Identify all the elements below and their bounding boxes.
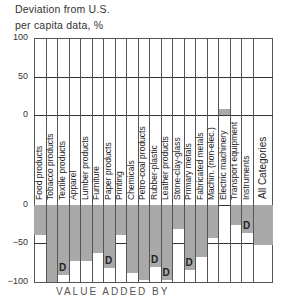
column-divider [115, 38, 116, 283]
tick-0-lower: 0 [4, 199, 28, 209]
axis-title-line1: Deviation from U.S. [15, 3, 110, 15]
bar [92, 205, 104, 253]
bar [207, 205, 219, 238]
category-label: Petro-coal products [137, 126, 147, 200]
bar [195, 205, 207, 257]
gridline-0-upper [34, 115, 273, 116]
category-label: Electric machinery [218, 131, 228, 200]
category-label: Chemicals [126, 160, 136, 200]
category-label: Instruments [241, 156, 251, 200]
column-divider [69, 38, 70, 283]
category-label: Food products [34, 146, 44, 200]
bar [34, 205, 46, 235]
category-label: Rubber-plastic [149, 145, 159, 200]
tick-minus100: −100 [4, 276, 28, 286]
column-divider [253, 38, 254, 283]
gridline-50 [34, 77, 273, 78]
tick-50: 50 [4, 71, 28, 81]
disclosure-marker: D [186, 257, 193, 268]
bar [69, 205, 81, 261]
disclosure-marker: D [151, 254, 158, 265]
bar [80, 205, 92, 261]
category-label: Primary metals [183, 143, 193, 200]
bar [138, 205, 150, 280]
bar [172, 205, 184, 229]
category-label: Fabricated metals [195, 132, 205, 200]
bar [230, 205, 242, 225]
tick-minus50: −50 [4, 237, 28, 247]
bar [253, 205, 274, 245]
category-label: Transport equipment [229, 122, 239, 200]
disclosure-marker: D [105, 255, 112, 266]
category-label: Furniture [91, 166, 101, 200]
tick-0-upper: 0 [4, 109, 28, 119]
category-label: Leather products [160, 136, 170, 200]
category-label: Paper products [103, 142, 113, 200]
category-label: Lumber products [80, 136, 90, 200]
category-label: Stone-clay-glass [172, 137, 182, 200]
disclosure-marker: D [163, 267, 170, 278]
category-label: Machin. (non-elec.) [206, 127, 216, 200]
tick-100: 100 [4, 32, 28, 42]
category-label: Apparel [68, 171, 78, 200]
category-label: All Categories [257, 137, 268, 199]
chart-caption: VALUE ADDED BY [56, 286, 169, 295]
category-label: Textile products [57, 141, 67, 200]
axis-title-line2: per capita data, % [15, 19, 103, 31]
bar [218, 109, 230, 115]
bar [126, 205, 138, 273]
disclosure-marker: D [59, 262, 66, 273]
category-label: Printing [114, 171, 124, 200]
category-label: Tobacco products [45, 133, 55, 200]
bar [46, 205, 58, 282]
bar [115, 205, 127, 235]
column-divider [92, 38, 93, 283]
disclosure-marker: D [243, 220, 250, 231]
